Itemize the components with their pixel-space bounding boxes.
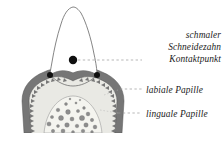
incisor-crown xyxy=(50,7,97,75)
label-labial-papilla: labiale Papille xyxy=(146,84,203,96)
label-incisor-line-2: Schneidezahn xyxy=(168,41,221,53)
contact-point-marker xyxy=(69,56,77,64)
labial-papilla-marker-left xyxy=(47,72,53,78)
label-incisor-contact-point: schmaler Schneidezahn Kontaktpunkt xyxy=(168,29,221,65)
label-incisor-line-1: schmaler xyxy=(168,29,221,41)
incisor-anatomy-diagram xyxy=(0,0,224,143)
figure-canvas: schmaler Schneidezahn Kontaktpunkt labia… xyxy=(0,0,224,143)
label-lingual-papilla: linguale Papille xyxy=(146,108,208,120)
label-incisor-line-3: Kontaktpunkt xyxy=(168,53,221,65)
labial-papilla-marker-right xyxy=(94,72,100,78)
